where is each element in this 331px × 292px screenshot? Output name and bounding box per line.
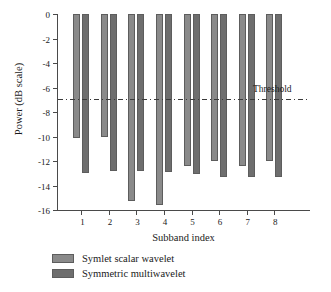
y-axis-tick: -8	[53, 112, 58, 113]
x-axis-tick: 4	[164, 210, 165, 215]
bar-series1-subband-1	[73, 14, 80, 138]
y-axis-tick: -10	[53, 137, 58, 138]
y-axis-tick: -12	[53, 161, 58, 162]
x-axis-tick-label: 1	[80, 218, 85, 227]
y-axis-tick-label: -16	[38, 207, 50, 216]
x-axis-title: Subband index	[57, 232, 310, 244]
y-axis-title: Power (dB scale)	[13, 29, 25, 169]
y-axis-tick: -6	[53, 88, 58, 89]
bar-series1-subband-4	[156, 14, 163, 205]
legend-label-2: Symmetric multiwavelet	[82, 268, 186, 280]
x-axis-tick: 8	[274, 210, 275, 215]
x-axis-tick-label: 7	[245, 218, 250, 227]
y-axis-tick: -2	[53, 39, 58, 40]
x-axis-tick: 7	[247, 210, 248, 215]
legend-item-1: Symlet scalar wavelet	[52, 251, 186, 266]
bar-series2-subband-8	[275, 14, 282, 177]
plot-area: 0-2-4-6-8-10-12-14-1612345678Threshold	[57, 14, 310, 211]
x-axis-tick-label: 8	[273, 218, 278, 227]
x-axis-tick: 3	[136, 210, 137, 215]
x-axis-tick-label: 5	[190, 218, 195, 227]
x-axis-tick: 2	[109, 210, 110, 215]
legend-label-1: Symlet scalar wavelet	[82, 253, 174, 265]
y-axis-tick: -14	[53, 186, 58, 187]
legend-swatch-2	[52, 269, 74, 278]
threshold-label: Threshold	[253, 84, 292, 94]
y-axis-tick-label: -8	[43, 109, 51, 118]
y-axis-tick-label: -10	[38, 133, 50, 142]
bar-series1-subband-6	[211, 14, 218, 161]
bar-series1-subband-3	[128, 14, 135, 201]
bar-series2-subband-7	[248, 14, 255, 177]
bar-series1-subband-5	[184, 14, 191, 166]
y-axis-tick-label: -12	[38, 158, 50, 167]
bar-series2-subband-1	[82, 14, 89, 173]
x-axis-tick: 5	[192, 210, 193, 215]
bar-series2-subband-6	[220, 14, 227, 177]
y-axis-tick-label: 0	[46, 11, 51, 20]
y-axis-tick: -4	[53, 63, 58, 64]
chart-legend: Symlet scalar waveletSymmetric multiwave…	[52, 251, 186, 281]
bar-series2-subband-3	[137, 14, 144, 171]
y-axis-tick-label: -6	[43, 84, 51, 93]
figure-bar-chart: Power (dB scale) 0-2-4-6-8-10-12-14-1612…	[0, 0, 331, 292]
bar-series1-subband-2	[101, 14, 108, 137]
x-axis-tick-label: 6	[218, 218, 223, 227]
x-axis-tick-label: 2	[108, 218, 113, 227]
y-axis-tick: 0	[53, 14, 58, 15]
bar-series2-subband-5	[193, 14, 200, 174]
x-axis-tick: 6	[219, 210, 220, 215]
y-axis-tick-label: -4	[43, 60, 51, 69]
y-axis-tick-label: -2	[43, 35, 51, 44]
x-axis-tick-label: 3	[135, 218, 140, 227]
bar-series2-subband-2	[110, 14, 117, 171]
x-axis-tick: 1	[81, 210, 82, 215]
legend-swatch-1	[52, 254, 74, 263]
legend-item-2: Symmetric multiwavelet	[52, 266, 186, 281]
bar-series2-subband-4	[165, 14, 172, 172]
x-axis-tick-label: 4	[163, 218, 168, 227]
y-axis-tick: -16	[53, 210, 58, 211]
bar-series1-subband-7	[239, 14, 246, 166]
y-axis-tick-label: -14	[38, 182, 50, 191]
